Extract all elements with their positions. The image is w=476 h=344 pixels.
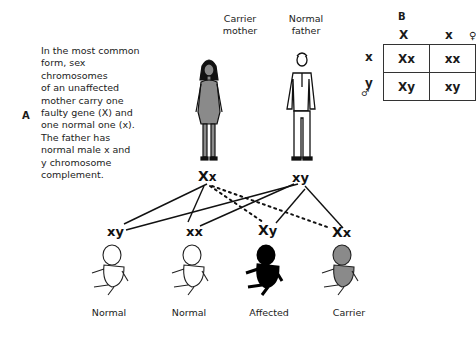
baby-carrier-icon — [322, 245, 358, 295]
child-4-label: Carrier — [314, 307, 384, 318]
child-3-genotype: Xy — [258, 222, 277, 238]
cell-Xy: Xy — [384, 73, 430, 101]
baby-normal-2-icon — [172, 245, 208, 295]
male-symbol-icon: ♂ — [361, 88, 369, 98]
mother-figure-icon — [196, 60, 222, 160]
child-2-genotype: xx — [186, 224, 203, 239]
mother-genotype: Xx — [198, 168, 217, 184]
cell-Xx: Xx — [384, 45, 430, 73]
cell-xx: xx — [430, 45, 476, 73]
punnett-grid: Xx xx Xy xy — [383, 44, 476, 101]
col-header-x: x — [445, 28, 453, 42]
solid-inheritance-lines — [124, 184, 343, 230]
father-figure-icon — [287, 53, 315, 160]
female-symbol-icon: ♀ — [469, 30, 476, 41]
cell-xy: xy — [430, 73, 476, 101]
father-genotype: xy — [292, 170, 309, 185]
row-header-x: x — [365, 50, 373, 64]
child-3-label: Affected — [234, 307, 304, 318]
panel-b-label: B — [398, 11, 406, 22]
child-1-genotype: xy — [107, 224, 124, 239]
baby-normal-1-icon — [92, 245, 128, 295]
child-1-label: Normal — [74, 307, 144, 318]
child-4-genotype: Xx — [332, 224, 351, 240]
child-2-label: Normal — [154, 307, 224, 318]
col-header-X: X — [399, 28, 408, 42]
baby-affected-icon — [246, 246, 282, 295]
punnett-square: X x ♀ x y ♂ Xx xx Xy xy — [361, 28, 476, 108]
